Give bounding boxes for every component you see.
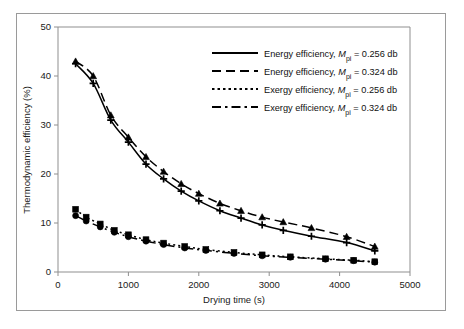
marker-plus <box>178 188 185 195</box>
y-tick-label-40: 40 <box>40 70 51 81</box>
marker-plus <box>343 239 350 246</box>
marker-plus <box>195 197 202 204</box>
y-tick-label-30: 30 <box>40 119 51 130</box>
series-line-2 <box>76 209 375 261</box>
marker-plus <box>259 221 266 228</box>
series-2 <box>73 206 378 264</box>
marker-square <box>73 206 79 212</box>
x-axis-title: Drying time (s) <box>203 294 265 305</box>
marker-circle <box>182 245 188 251</box>
legend-label-3: Exergy efficiency, Mpi = 0.324 db <box>264 103 397 117</box>
marker-plus <box>237 215 244 222</box>
marker-circle <box>83 218 89 224</box>
marker-plus <box>308 233 315 240</box>
y-tick-label-50: 50 <box>40 21 51 32</box>
marker-plus <box>216 207 223 214</box>
y-tick-label-20: 20 <box>40 168 51 179</box>
chart-legend: Energy efficiency, Mpi = 0.256 dbEnergy … <box>212 49 398 117</box>
y-tick-label-0: 0 <box>46 266 51 277</box>
legend-label-0: Energy efficiency, Mpi = 0.256 db <box>264 49 398 63</box>
marker-plus <box>280 227 287 234</box>
chart-plot: 01020304050010002000300040005000 Energy … <box>0 0 464 329</box>
marker-triangle <box>72 58 79 64</box>
x-tick-label-4000: 4000 <box>329 279 350 290</box>
x-tick-label-1000: 1000 <box>118 279 139 290</box>
marker-circle <box>73 213 79 219</box>
legend-label-2: Exergy efficiency, Mpi = 0.256 db <box>264 85 397 99</box>
marker-circle <box>231 250 237 256</box>
marker-circle <box>259 253 265 259</box>
marker-triangle <box>178 180 185 186</box>
legend-label-1: Energy efficiency, Mpi = 0.324 db <box>264 67 398 81</box>
marker-circle <box>97 224 103 230</box>
marker-circle <box>161 242 167 248</box>
marker-circle <box>111 229 117 235</box>
x-tick-label-0: 0 <box>55 279 60 290</box>
y-axis-title: Thermodynamic efficiency (%) <box>21 86 32 214</box>
marker-circle <box>203 247 209 253</box>
y-tick-label-10: 10 <box>40 217 51 228</box>
marker-triangle <box>217 200 224 206</box>
marker-circle <box>351 258 357 264</box>
marker-circle <box>323 256 329 262</box>
figure-container: 01020304050010002000300040005000 Energy … <box>0 0 464 329</box>
marker-circle <box>287 254 293 260</box>
x-tick-label-2000: 2000 <box>188 279 209 290</box>
series-3 <box>73 213 378 266</box>
marker-circle <box>372 259 378 265</box>
x-tick-label-5000: 5000 <box>399 279 420 290</box>
marker-triangle <box>259 214 266 220</box>
axes-group: 01020304050010002000300040005000 <box>40 21 420 290</box>
x-tick-label-3000: 3000 <box>259 279 280 290</box>
marker-circle <box>125 234 131 240</box>
marker-triangle <box>195 190 202 196</box>
marker-circle <box>143 238 149 244</box>
